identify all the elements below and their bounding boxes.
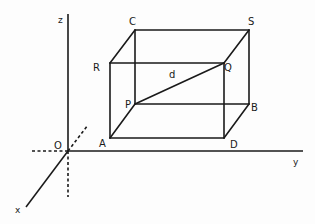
- z-axis-label: z: [58, 15, 63, 25]
- edge-RC: [110, 30, 135, 63]
- labels: z y x O C S R Q P B A D d: [15, 15, 299, 215]
- vertex-label-P: P: [125, 99, 131, 110]
- vertex-label-Q: Q: [224, 62, 232, 73]
- negative-x-axis: [68, 125, 88, 151]
- vertex-label-C: C: [129, 16, 136, 27]
- vertex-label-S: S: [248, 16, 254, 27]
- rectangular-box: [110, 30, 249, 138]
- edge-AP: [110, 104, 135, 138]
- box-coordinate-diagram: z y x O C S R Q P B A D d: [0, 0, 315, 224]
- y-axis-label: y: [293, 157, 299, 167]
- x-axis: [26, 151, 68, 207]
- origin-label: O: [54, 140, 62, 151]
- diagonal-PQ: [135, 63, 224, 104]
- edge-QS: [224, 30, 249, 63]
- x-axis-label: x: [15, 205, 21, 215]
- vertex-label-A: A: [99, 138, 106, 149]
- diagonal-label-d: d: [169, 69, 175, 80]
- edge-DB: [224, 104, 249, 138]
- vertex-label-B: B: [251, 102, 258, 113]
- vertex-label-D: D: [230, 139, 238, 150]
- axes: [26, 14, 303, 207]
- vertex-label-R: R: [93, 62, 100, 73]
